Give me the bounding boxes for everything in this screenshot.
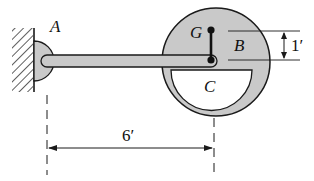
point-c-pin — [207, 56, 214, 63]
label-a: A — [49, 17, 61, 36]
label-g: G — [190, 23, 202, 42]
pendulum-diagram: A G B C 1′ 6′ — [0, 0, 314, 181]
label-b: B — [234, 36, 245, 55]
label-c: C — [204, 77, 216, 96]
point-g — [207, 26, 214, 33]
fixed-wall — [12, 28, 34, 92]
label-6ft: 6′ — [122, 126, 134, 145]
slender-rod — [41, 55, 217, 67]
label-1ft: 1′ — [291, 36, 303, 55]
